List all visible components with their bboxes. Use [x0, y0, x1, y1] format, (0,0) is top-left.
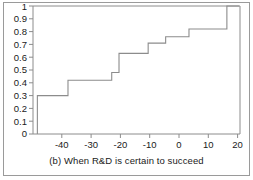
x-tick-label: 10 — [203, 139, 214, 150]
y-tick-label: 0.2 — [14, 103, 27, 114]
x-tick-label: 0 — [176, 139, 181, 150]
x-tick-label: -40 — [55, 139, 69, 150]
x-tick-label: -30 — [84, 139, 98, 150]
y-tick-label: 0.3 — [14, 90, 27, 101]
figure-caption: (b) When R&D is certain to succeed — [0, 155, 253, 166]
step-curve-series — [37, 6, 239, 134]
y-tick-marks — [29, 6, 33, 134]
x-tick-label: -20 — [114, 139, 128, 150]
y-tick-label: 0.7 — [14, 39, 27, 50]
y-tick-label: 0.1 — [14, 116, 27, 127]
y-tick-label: 0 — [22, 128, 27, 139]
x-tick-labels: -40 -30 -20 -10 0 10 20 — [55, 139, 243, 150]
y-tick-label: 0.6 — [14, 52, 27, 63]
y-tick-label: 0.8 — [14, 26, 27, 37]
axes — [33, 6, 240, 134]
y-tick-label: 0.9 — [14, 13, 27, 24]
figure-panel: 0 0.1 0.2 0.3 0.4 0.5 0.6 0.7 0.8 0.9 1 … — [0, 0, 253, 180]
y-tick-label: 1 — [22, 1, 27, 12]
y-tick-labels: 0 0.1 0.2 0.3 0.4 0.5 0.6 0.7 0.8 0.9 1 — [14, 1, 27, 140]
y-tick-label: 0.4 — [14, 77, 27, 88]
x-tick-label: -10 — [143, 139, 157, 150]
x-tick-marks — [62, 134, 238, 138]
chart-plot: 0 0.1 0.2 0.3 0.4 0.5 0.6 0.7 0.8 0.9 1 … — [0, 0, 253, 180]
y-tick-label: 0.5 — [14, 64, 27, 75]
x-tick-label: 20 — [232, 139, 243, 150]
